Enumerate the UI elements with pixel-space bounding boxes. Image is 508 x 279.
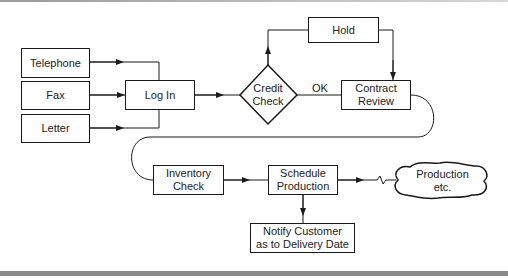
node-label: Letter: [41, 122, 69, 135]
label-line: Review: [358, 95, 394, 108]
node-label: Log In: [145, 89, 176, 102]
node-login: Log In: [125, 80, 195, 110]
label-line: Credit: [244, 82, 292, 95]
edge-letter-login: [90, 110, 159, 128]
edge-credit-hold: [268, 30, 308, 65]
label-line: etc.: [405, 181, 480, 194]
label-line: Contract: [355, 82, 397, 95]
edge-label-ok: OK: [309, 82, 331, 95]
label-line: Production: [277, 180, 330, 193]
node-contract-review: Contract Review: [341, 80, 411, 110]
node-credit-check-label: Credit Check: [244, 82, 292, 108]
node-label: Telephone: [30, 57, 81, 70]
label-line: as to Delivery Date: [256, 238, 349, 251]
node-letter: Letter: [21, 114, 90, 143]
label-line: Check: [173, 180, 204, 193]
node-hold: Hold: [308, 17, 379, 43]
node-notify-customer: Notify Customer as to Delivery Date: [250, 223, 355, 253]
label-line: Production: [405, 168, 480, 181]
node-telephone: Telephone: [21, 48, 90, 78]
node-production-etc-label: Production etc.: [405, 168, 480, 194]
node-schedule-production: Schedule Production: [268, 165, 338, 195]
node-label: Hold: [332, 24, 355, 37]
edge-telephone-login: [90, 62, 159, 80]
node-inventory-check: Inventory Check: [153, 165, 224, 195]
label-line: Notify Customer: [263, 225, 342, 238]
label-line: Schedule: [280, 167, 326, 180]
node-fax: Fax: [21, 81, 90, 110]
label-line: Check: [244, 95, 292, 108]
bottom-border: [0, 271, 508, 276]
label-line: Inventory: [166, 167, 211, 180]
node-label: Fax: [46, 89, 64, 102]
edge-hold-contract: [379, 30, 393, 80]
